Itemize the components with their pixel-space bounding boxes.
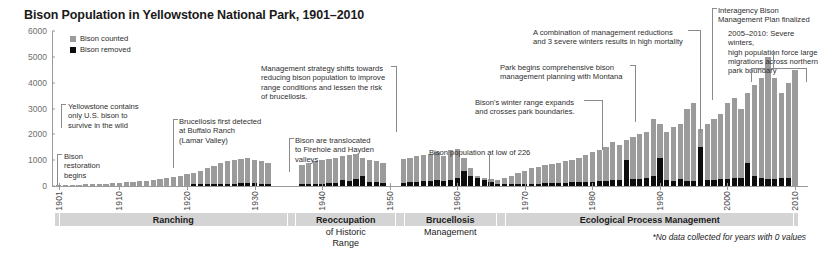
x-axis-tick-mark — [187, 183, 188, 190]
bar-segment-counted — [144, 181, 149, 186]
bar-segment-removed — [657, 158, 662, 186]
bracket-top — [751, 68, 806, 69]
footnote: *No data collected for years with 0 valu… — [652, 232, 806, 242]
bar-segment-removed — [232, 184, 237, 186]
x-axis-tick-label: 1980 — [587, 191, 597, 211]
bar-segment-counted — [765, 57, 770, 186]
bar-year-1961 — [461, 31, 466, 186]
x-axis-tick-mark — [592, 183, 593, 190]
legend-swatch-icon — [70, 36, 76, 42]
legend-item-counted[interactable]: Bison counted — [70, 33, 131, 44]
bar-segment-removed — [475, 178, 480, 186]
legend-swatch-icon — [70, 47, 76, 53]
legend-label: Bison removed — [80, 45, 131, 54]
x-axis-tick-mark — [119, 183, 120, 190]
bar-segment-removed — [367, 182, 372, 186]
bar-segment-counted — [90, 184, 95, 186]
x-axis-tick-mark — [390, 183, 391, 190]
bar-segment-counted — [779, 93, 784, 186]
bar-year-1930 — [252, 31, 257, 186]
era-band-cap — [505, 213, 506, 226]
y-axis-tick-mark — [52, 160, 55, 161]
x-axis-tick-label: 2000 — [722, 191, 732, 211]
bar-year-1923 — [205, 31, 210, 186]
leader-line-horizontal — [289, 138, 294, 139]
bar-segment-counted — [313, 161, 318, 186]
era-band-cap — [404, 213, 405, 226]
bar-segment-removed — [536, 184, 541, 186]
era-label: Ecological Process Management — [501, 213, 799, 226]
annotation-interagency-plan: Interagency Bison Management Plan finali… — [718, 6, 810, 25]
bar-segment-removed — [698, 147, 703, 186]
bar-year-1929 — [245, 31, 250, 186]
leader-line-vertical — [602, 100, 603, 150]
x-axis-tick-mark — [322, 183, 323, 190]
bar-segment-removed — [576, 182, 581, 186]
bar-segment-removed — [624, 160, 629, 186]
bar-segment-removed — [691, 181, 696, 186]
bar-segment-removed — [407, 182, 412, 186]
bar-segment-removed — [461, 171, 466, 187]
annotation-yellowstone-contains: Yellowstone contains only U.S. bison to … — [68, 102, 139, 130]
bar-segment-removed — [765, 179, 770, 186]
bracket-right-arm — [806, 68, 807, 82]
bar-segment-removed — [211, 184, 216, 186]
bar-segment-counted — [76, 185, 81, 186]
bar-year-1932 — [265, 31, 270, 186]
bar-segment-removed — [738, 178, 743, 186]
bar-year-1931 — [259, 31, 264, 186]
bar-segment-counted — [786, 83, 791, 186]
bar-year-1955 — [421, 31, 426, 186]
bar-segment-removed — [218, 184, 223, 186]
bar-segment-removed — [414, 182, 419, 186]
leader-line-horizontal — [173, 119, 178, 120]
bar-segment-removed — [664, 180, 669, 186]
bar-segment-removed — [752, 176, 757, 186]
x-axis-tick-label: 1901 — [54, 191, 64, 211]
bar-segment-removed — [434, 180, 439, 186]
bar-year-1926 — [225, 31, 230, 186]
bar-year-1982 — [603, 31, 608, 186]
bar-year-1978 — [576, 31, 581, 186]
bar-segment-removed — [191, 184, 196, 186]
x-axis-tick-label: 1990 — [655, 191, 665, 211]
bar-segment-counted — [164, 178, 169, 186]
bar-segment-removed — [353, 179, 358, 186]
bar-segment-counted — [705, 124, 710, 186]
bar-segment-counted — [157, 179, 162, 186]
annotation-bison-population-low: Bison population at low of 226 — [429, 148, 530, 157]
bar-segment-removed — [326, 183, 331, 186]
bar-segment-removed — [644, 178, 649, 186]
bar-year-1952 — [401, 31, 406, 186]
leader-line-horizontal — [57, 154, 62, 155]
bar-segment-removed — [732, 178, 737, 186]
bar-segment-counted — [178, 176, 183, 186]
x-axis-tick-label: 1970 — [520, 191, 530, 211]
bar-year-1953 — [407, 31, 412, 186]
bar-segment-removed — [313, 184, 318, 186]
bar-segment-counted — [232, 160, 237, 186]
bar-segment-counted — [691, 103, 696, 186]
bar-segment-counted — [245, 158, 250, 186]
legend-item-removed[interactable]: Bison removed — [70, 44, 131, 55]
bar-segment-counted — [752, 85, 757, 186]
bar-segment-removed — [630, 179, 635, 186]
bar-segment-counted — [678, 124, 683, 186]
bar-segment-counted — [205, 168, 210, 186]
bar-segment-counted — [725, 103, 730, 186]
bar-segment-removed — [225, 184, 230, 186]
bar-segment-removed — [306, 184, 311, 186]
bar-year-1922 — [198, 31, 203, 186]
era-label: Ranching — [55, 213, 292, 226]
annotation-bison-restoration-begins: Bison restoration begins — [64, 152, 100, 180]
bar-segment-removed — [759, 178, 764, 186]
bar-segment-counted — [664, 132, 669, 186]
era-band-cap — [395, 213, 396, 226]
leader-line-vertical — [57, 154, 58, 185]
bar-year-1985 — [624, 31, 629, 186]
bar-year-1954 — [414, 31, 419, 186]
bar-segment-counted — [732, 98, 737, 186]
bar-year-1983 — [610, 31, 615, 186]
bar-segment-removed — [380, 183, 385, 186]
bar-segment-counted — [772, 78, 777, 187]
